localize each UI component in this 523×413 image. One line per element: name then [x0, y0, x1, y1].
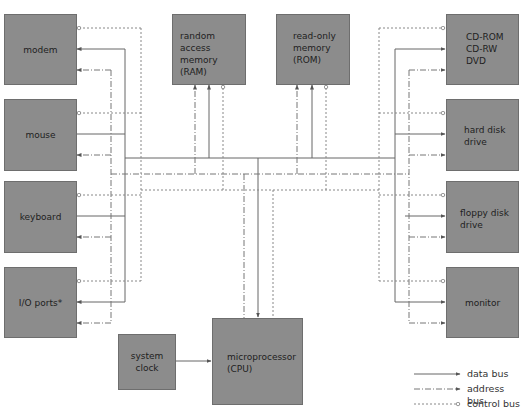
- monitor-box: monitor: [446, 267, 519, 338]
- address-bus: [77, 70, 445, 323]
- floppy-label: floppy disk drive: [460, 207, 509, 231]
- rom-label: read-only memory (ROM): [293, 30, 336, 66]
- legend-data-bus: data bus: [467, 368, 508, 380]
- legend-lines: [414, 374, 460, 404]
- system-clock-box: system clock: [118, 334, 176, 390]
- cpu-label: microprocessor (CPU): [227, 351, 296, 375]
- hard-disk-box: hard disk drive: [446, 99, 519, 171]
- cpu-box: microprocessor (CPU): [212, 318, 303, 405]
- ram-box: random access memory (RAM): [172, 14, 246, 85]
- mouse-label: mouse: [5, 100, 76, 170]
- monitor-label: monitor: [447, 268, 518, 337]
- keyboard-box: keyboard: [4, 181, 77, 253]
- optical-drive-box: CD-ROM CD-RW DVD: [446, 14, 519, 85]
- ram-label: random access memory (RAM): [180, 30, 245, 78]
- data-bus: [77, 49, 445, 361]
- hard-disk-label: hard disk drive: [464, 124, 505, 148]
- keyboard-label: keyboard: [5, 182, 76, 252]
- io-ports-label: I/O ports*: [5, 268, 76, 337]
- mouse-box: mouse: [4, 99, 77, 171]
- control-bus: [77, 28, 445, 318]
- rom-box: read-only memory (ROM): [276, 14, 350, 85]
- bus-diagram: modem mouse keyboard I/O ports* random a…: [0, 0, 523, 413]
- floppy-box: floppy disk drive: [446, 181, 519, 253]
- legend-control-bus: control bus: [467, 398, 520, 410]
- modem-box: modem: [4, 14, 77, 85]
- system-clock-label: system clock: [119, 335, 175, 389]
- optical-drive-label: CD-ROM CD-RW DVD: [466, 31, 504, 67]
- io-ports-box: I/O ports*: [4, 267, 77, 338]
- modem-label: modem: [5, 15, 76, 84]
